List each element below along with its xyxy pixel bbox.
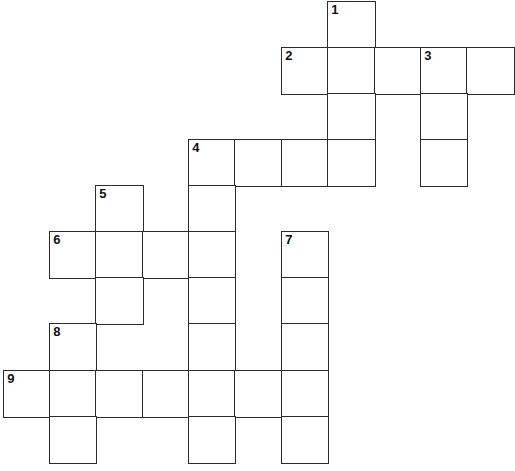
crossword-cell[interactable]	[188, 416, 236, 464]
crossword-cell[interactable]	[188, 323, 236, 372]
cell-letter-input[interactable]	[282, 48, 328, 94]
cell-letter-input[interactable]	[282, 232, 328, 278]
crossword-cell[interactable]: 8	[49, 323, 97, 372]
cell-letter-input[interactable]	[189, 371, 235, 417]
crossword-cell[interactable]	[281, 139, 329, 187]
crossword-cell[interactable]	[188, 231, 236, 279]
crossword-cell[interactable]	[142, 370, 190, 418]
crossword-cell[interactable]: 4	[188, 139, 236, 187]
crossword-cell[interactable]	[420, 139, 468, 187]
crossword-cell[interactable]	[327, 139, 376, 187]
crossword-cell[interactable]	[281, 370, 329, 418]
crossword-cell[interactable]	[327, 47, 376, 95]
crossword-cell[interactable]	[466, 47, 515, 95]
crossword-cell[interactable]: 2	[281, 47, 329, 95]
cell-letter-input[interactable]	[50, 324, 96, 371]
cell-letter-input[interactable]	[96, 232, 143, 278]
crossword-cell[interactable]	[95, 370, 144, 418]
crossword-cell[interactable]	[142, 231, 190, 279]
crossword-cell[interactable]	[188, 277, 236, 325]
cell-letter-input[interactable]	[189, 417, 235, 463]
crossword-cell[interactable]	[95, 277, 144, 325]
cell-letter-input[interactable]	[282, 371, 328, 417]
cell-letter-input[interactable]	[421, 94, 467, 140]
crossword-cell[interactable]	[374, 47, 422, 95]
crossword-cell[interactable]: 6	[49, 231, 97, 279]
cell-letter-input[interactable]	[235, 371, 282, 417]
crossword-cell[interactable]: 5	[95, 185, 144, 233]
crossword-cell[interactable]	[49, 370, 97, 418]
crossword-cell[interactable]	[188, 370, 236, 418]
cell-letter-input[interactable]	[375, 48, 421, 94]
cell-letter-input[interactable]	[421, 140, 467, 186]
cell-letter-input[interactable]	[96, 278, 143, 324]
crossword-cell[interactable]	[281, 416, 329, 464]
crossword-cell[interactable]	[281, 277, 329, 325]
crossword-cell[interactable]	[420, 93, 468, 141]
cell-letter-input[interactable]	[50, 232, 96, 278]
cell-letter-input[interactable]	[467, 48, 514, 94]
cell-letter-input[interactable]	[96, 186, 143, 232]
cell-letter-input[interactable]	[328, 2, 375, 48]
cell-letter-input[interactable]	[328, 94, 375, 140]
crossword-cell[interactable]	[281, 323, 329, 372]
cell-letter-input[interactable]	[189, 278, 235, 324]
cell-letter-input[interactable]	[189, 232, 235, 278]
cell-letter-input[interactable]	[421, 48, 467, 94]
crossword-cell[interactable]: 7	[281, 231, 329, 279]
cell-letter-input[interactable]	[50, 371, 96, 417]
crossword-cell[interactable]: 1	[327, 1, 376, 49]
cell-letter-input[interactable]	[96, 371, 143, 417]
cell-letter-input[interactable]	[328, 140, 375, 186]
cell-letter-input[interactable]	[4, 371, 50, 417]
cell-letter-input[interactable]	[282, 278, 328, 324]
crossword-cell[interactable]	[234, 370, 283, 418]
cell-letter-input[interactable]	[189, 140, 235, 186]
crossword-cell[interactable]: 9	[3, 370, 51, 418]
crossword-cell[interactable]	[49, 416, 97, 464]
crossword-cell[interactable]	[188, 185, 236, 233]
cell-letter-input[interactable]	[282, 324, 328, 371]
crossword-cell[interactable]	[327, 93, 376, 141]
cell-letter-input[interactable]	[189, 324, 235, 371]
cell-letter-input[interactable]	[143, 371, 189, 417]
cell-letter-input[interactable]	[328, 48, 375, 94]
cell-letter-input[interactable]	[189, 186, 235, 232]
cell-letter-input[interactable]	[50, 417, 96, 463]
cell-letter-input[interactable]	[282, 417, 328, 463]
cell-letter-input[interactable]	[235, 140, 282, 186]
cell-letter-input[interactable]	[143, 232, 189, 278]
crossword-cell[interactable]	[95, 231, 144, 279]
crossword-cell[interactable]	[234, 139, 283, 187]
cell-letter-input[interactable]	[282, 140, 328, 186]
crossword-cell[interactable]: 3	[420, 47, 468, 95]
